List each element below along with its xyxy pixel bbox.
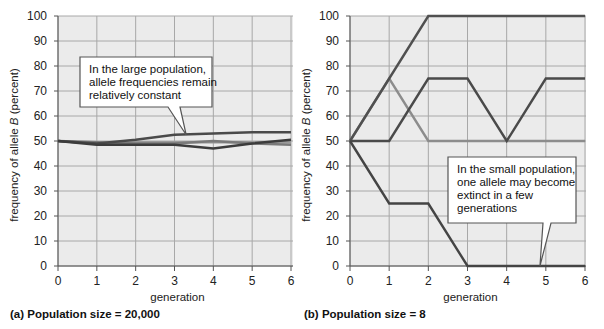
panel-b-caption: (b) Population size = 8 [304,308,426,320]
panel-a-caption: (a) Population size = 20,000 [10,308,160,320]
x-tick-label: 0 [55,274,62,288]
y-tick-label: 90 [34,34,48,48]
x-tick-label: 3 [171,274,178,288]
annotation-line: generations [457,202,575,215]
y-tick-label: 0 [332,259,339,273]
y-tick-label: 20 [34,209,48,223]
x-tick-label: 1 [93,274,100,288]
x-tick-label: 4 [503,274,510,288]
y-tick-label: 50 [34,134,48,148]
y-axis-label: frequency of allele B (percent) [8,68,20,222]
x-tick-label: 2 [425,274,432,288]
y-tick-label: 80 [34,59,48,73]
x-tick-label: 2 [132,274,139,288]
y-tick-label: 70 [326,84,340,98]
y-tick-label: 10 [34,234,48,248]
y-tick-label: 0 [40,259,47,273]
y-tick-label: 10 [326,234,340,248]
x-tick-label: 3 [464,274,471,288]
annotation-line: extinct in a few [457,189,575,202]
y-tick-label: 50 [326,134,340,148]
chart-panel-b: 01020304050607080901000123456generationf… [300,9,589,303]
annotation-line: allele frequencies remain [89,76,217,89]
y-tick-label: 20 [326,209,340,223]
annotation-line: In the small population, [457,163,575,176]
x-tick-label: 4 [210,274,217,288]
x-axis-label: generation [150,291,204,303]
y-tick-label: 100 [27,9,47,23]
annotation-line: one allele may become [457,176,575,189]
annotation-line: relatively constant [89,89,217,102]
x-tick-label: 0 [347,274,354,288]
x-tick-label: 6 [288,274,295,288]
x-axis-label: generation [443,291,497,303]
y-tick-label: 40 [326,159,340,173]
y-tick-label: 80 [326,59,340,73]
chart-panel-a: 01020304050607080901000123456generationf… [8,9,295,303]
y-tick-label: 70 [34,84,48,98]
annotation-small-population: In the small population, one allele may … [457,163,575,215]
y-tick-label: 30 [326,184,340,198]
y-tick-label: 60 [326,109,340,123]
y-axis-label: frequency of allele B (percent) [300,68,312,222]
x-tick-label: 6 [582,274,589,288]
x-tick-label: 1 [386,274,393,288]
y-tick-label: 30 [34,184,48,198]
y-tick-label: 100 [319,9,339,23]
y-tick-label: 40 [34,159,48,173]
annotation-line: In the large population, [89,63,217,76]
x-tick-label: 5 [542,274,549,288]
x-tick-label: 5 [249,274,256,288]
annotation-large-population: In the large population, allele frequenc… [89,63,217,102]
y-tick-label: 60 [34,109,48,123]
y-tick-label: 90 [326,34,340,48]
